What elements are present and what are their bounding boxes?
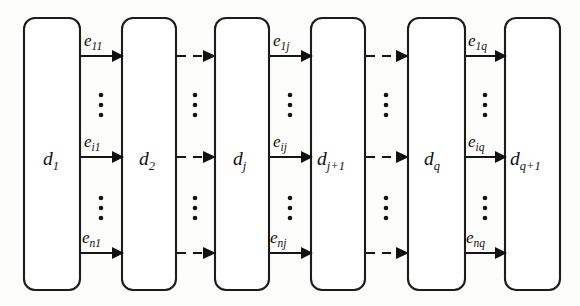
diagram-canvas: d1 d2 dj dj+1 dq dq+1 e11 [0,0,580,306]
vertical-ellipsis-d1-d2-upper [99,93,104,118]
node-box-d2[interactable] [122,18,176,290]
node-group [24,18,560,290]
edge-label-e1q: e1q [468,31,487,53]
edge-label-en1: en1 [82,228,101,249]
edge-label-enq: enq [466,228,485,250]
vertical-ellipsis-dq-dq1-upper [483,93,488,118]
edge-group-dj1-dq [366,50,409,259]
edge-label-e11: e11 [84,31,102,52]
vertical-ellipsis-d2-dj-lower [193,196,198,221]
vertical-ellipsis-dj1-dq-lower [384,196,389,221]
edge-label-eiq: eiq [468,132,485,154]
edge-group-d2-dj [177,50,216,259]
diagram-svg: d1 d2 dj dj+1 dq dq+1 e11 [0,0,580,306]
vertical-ellipsis-dj-dj1-lower [288,196,293,221]
edge-label-ei1: ei1 [84,132,101,153]
edge-label-eij: eij [273,132,287,154]
node-box-dq[interactable] [408,18,465,290]
vertical-ellipsis-dj-dj1-upper [288,93,293,118]
edge-label-enj: enj [270,228,287,250]
vertical-ellipsis-d2-dj-upper [193,93,198,118]
vertical-ellipsis-d1-d2-lower [99,196,104,221]
edge-label-e1j: e1j [273,31,290,53]
vertical-ellipsis-dj1-dq-upper [384,93,389,118]
vertical-ellipsis-dq-dq1-lower [483,196,488,221]
